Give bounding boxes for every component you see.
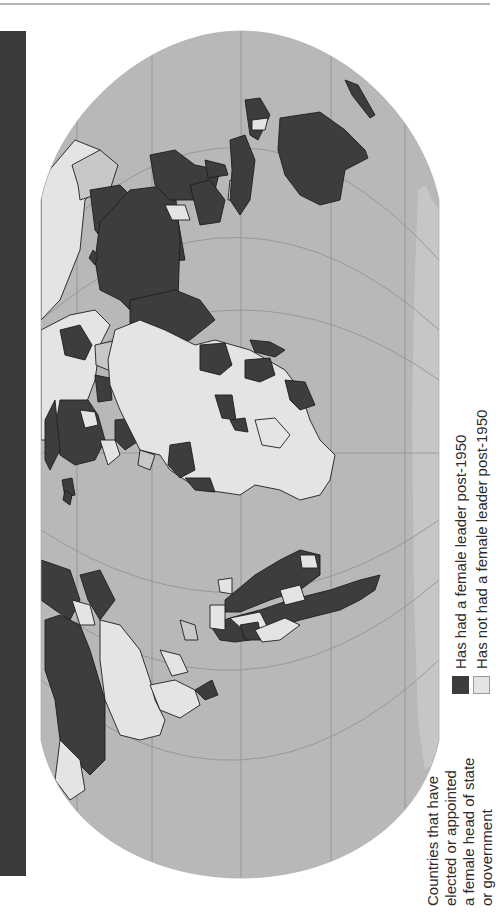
legend-title: Countries that have elected or appointed…: [424, 746, 496, 906]
legend-label: Has not had a female leader post-1950: [473, 410, 490, 669]
legend-item-no-female-leader: Has not had a female leader post-1950: [471, 410, 492, 694]
legend-title-line: or government: [478, 746, 496, 906]
legend-label: Has had a female leader post-1950: [452, 435, 469, 669]
legend: Has had a female leader post-1950 Has no…: [450, 410, 492, 694]
legend-title-line: a female head of state: [460, 746, 478, 906]
legend-title-line: elected or appointed: [442, 746, 460, 906]
legend-swatch-dark: [452, 676, 469, 694]
legend-title-line: Countries that have: [424, 746, 442, 906]
legend-item-had-female-leader: Has had a female leader post-1950: [450, 410, 471, 694]
legend-swatch-light: [473, 676, 490, 694]
